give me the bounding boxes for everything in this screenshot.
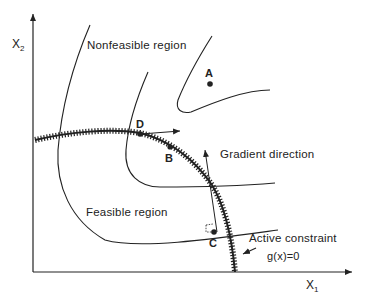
active-constraint-label: Active constraint <box>249 232 337 244</box>
x-axis-label-main: X <box>306 278 314 292</box>
y-axis-label-main: X <box>12 37 20 51</box>
constraint-pointer-arrow <box>243 248 256 254</box>
point-c-label: C <box>209 237 217 249</box>
gradient-direction-label: Gradient direction <box>220 148 314 160</box>
y-axis-label-sub: 2 <box>20 44 24 53</box>
feasible-region-label: Feasible region <box>86 206 168 218</box>
point-d-label: D <box>136 118 144 130</box>
x-axis-label-sub: 1 <box>314 285 318 294</box>
constraint-equation-label: g(x)=0 <box>267 250 300 262</box>
point-d-dot <box>137 131 143 137</box>
x-axis-label: X1 <box>306 278 318 294</box>
point-b-dot <box>167 144 172 149</box>
contour-inner <box>177 36 270 113</box>
tangent-arrow <box>141 131 180 134</box>
diagram-canvas <box>0 0 375 304</box>
y-axis-label: X2 <box>12 37 24 53</box>
point-c-dot <box>211 229 217 235</box>
point-b-label: B <box>165 152 173 164</box>
point-a-label: A <box>205 67 213 79</box>
point-a-dot <box>207 81 213 87</box>
nonfeasible-region-label: Nonfeasible region <box>87 39 187 51</box>
